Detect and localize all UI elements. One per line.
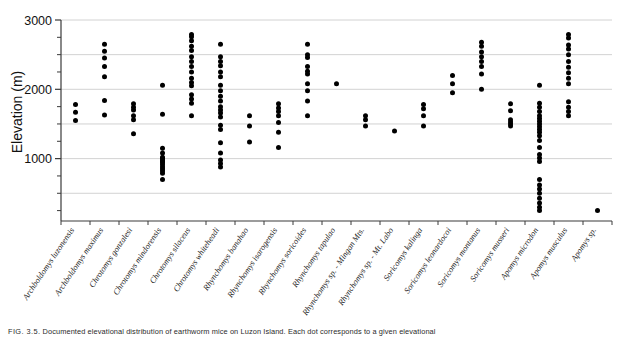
data-point	[479, 59, 484, 64]
data-point	[189, 101, 194, 106]
data-point	[305, 42, 310, 47]
data-point	[508, 124, 513, 129]
data-point	[189, 48, 194, 53]
data-point	[102, 42, 107, 47]
plot-background	[0, 0, 624, 345]
data-point	[566, 52, 571, 57]
data-point	[334, 81, 339, 86]
data-point	[421, 106, 426, 111]
data-point	[218, 83, 223, 88]
data-point	[131, 117, 136, 122]
data-point	[73, 118, 78, 123]
data-point	[218, 127, 223, 132]
data-point	[479, 49, 484, 54]
data-point	[566, 99, 571, 104]
data-point	[218, 69, 223, 74]
y-axis-title: Elevation (m)	[9, 71, 25, 153]
svg-text:Elevation (m): Elevation (m)	[9, 71, 25, 153]
data-point	[566, 81, 571, 86]
data-point	[450, 90, 455, 95]
figure-number: FIG. 3.5.	[8, 327, 40, 336]
data-point	[247, 113, 252, 118]
data-point	[305, 55, 310, 60]
data-point	[537, 83, 542, 88]
data-point	[102, 112, 107, 117]
data-point	[160, 171, 165, 176]
data-point	[479, 54, 484, 59]
data-point	[73, 102, 78, 107]
data-point	[537, 138, 542, 143]
data-point	[421, 124, 426, 129]
data-point	[537, 133, 542, 138]
data-point	[479, 87, 484, 92]
data-point	[479, 44, 484, 49]
y-tick-label: 3000	[24, 14, 52, 28]
data-point	[566, 76, 571, 81]
data-point	[160, 146, 165, 151]
data-point	[131, 108, 136, 113]
data-point	[218, 74, 223, 79]
data-point	[595, 208, 600, 213]
data-point	[537, 159, 542, 164]
data-point	[305, 64, 310, 69]
data-point	[305, 88, 310, 93]
data-point	[450, 81, 455, 86]
y-tick-label: 1000	[24, 152, 52, 166]
figure-caption-text: Documented elevational distribution of e…	[43, 327, 436, 336]
data-point	[131, 131, 136, 136]
y-tick-label: 2000	[24, 83, 52, 97]
data-point	[218, 151, 223, 156]
data-point	[305, 72, 310, 77]
data-point	[508, 101, 513, 106]
data-point	[218, 94, 223, 99]
data-point	[189, 59, 194, 64]
data-point	[276, 113, 281, 118]
data-point	[102, 64, 107, 69]
data-point	[102, 74, 107, 79]
data-point	[218, 42, 223, 47]
data-point	[73, 110, 78, 115]
data-point	[450, 73, 455, 78]
data-point	[363, 124, 368, 129]
data-point	[537, 196, 542, 201]
data-point	[305, 81, 310, 86]
data-point	[189, 113, 194, 118]
data-point	[102, 56, 107, 61]
data-point	[102, 98, 107, 103]
data-point	[189, 69, 194, 74]
data-point	[189, 64, 194, 69]
data-point	[276, 130, 281, 135]
data-point	[218, 63, 223, 68]
data-point	[160, 83, 165, 88]
data-point	[537, 145, 542, 150]
data-point	[305, 113, 310, 118]
data-point	[160, 112, 165, 117]
figure-container: 100020003000 Archboldomys luzonensisArch…	[0, 0, 624, 345]
data-point	[392, 128, 397, 133]
data-point	[276, 120, 281, 125]
data-point	[479, 64, 484, 69]
data-point	[566, 47, 571, 52]
data-point	[218, 54, 223, 59]
elevation-dot-plot: 100020003000 Archboldomys luzonensisArch…	[0, 0, 624, 345]
data-point	[247, 124, 252, 129]
data-point	[537, 208, 542, 213]
data-point	[218, 99, 223, 104]
data-point	[566, 36, 571, 41]
data-point	[247, 139, 252, 144]
data-point	[479, 72, 484, 77]
figure-caption: FIG. 3.5. Documented elevational distrib…	[8, 327, 616, 337]
data-point	[537, 191, 542, 196]
data-point	[102, 49, 107, 54]
data-point	[363, 117, 368, 122]
data-point	[421, 113, 426, 118]
data-point	[537, 177, 542, 182]
data-point	[218, 140, 223, 145]
data-point	[566, 65, 571, 70]
data-point	[160, 177, 165, 182]
data-point	[276, 145, 281, 150]
data-point	[508, 108, 513, 113]
data-point	[305, 99, 310, 104]
data-point	[189, 54, 194, 59]
data-point	[566, 113, 571, 118]
